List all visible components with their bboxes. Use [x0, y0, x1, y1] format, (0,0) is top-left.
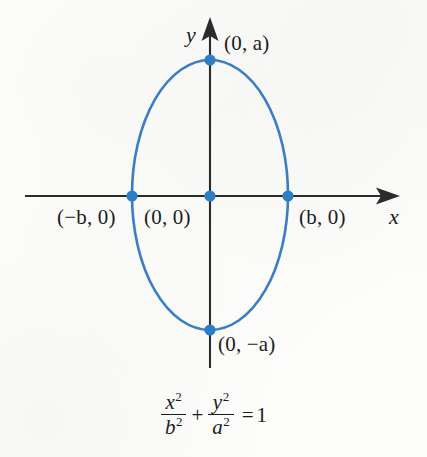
variable-x: x: [165, 390, 174, 414]
fraction-numerator: x2: [161, 392, 185, 414]
exponent-two: 2: [175, 389, 182, 404]
variable-a: a: [212, 415, 223, 439]
point-bottom-vertex: [204, 324, 215, 335]
fraction-numerator: y2: [209, 392, 233, 414]
exponent-two: 2: [223, 414, 230, 429]
exponent-two: 2: [176, 414, 183, 429]
label-left-vertex: (−b, 0): [57, 207, 116, 228]
plus-operator: +: [191, 405, 203, 426]
fraction-x-over-b: x2 b2: [161, 392, 187, 438]
label-origin: (0, 0): [144, 207, 191, 228]
label-right-vertex: (b, 0): [299, 207, 346, 228]
ellipse-figure: y x (0, a) (−b, 0) (0, 0) (b, 0) (0, −a)…: [0, 0, 427, 457]
point-top-vertex: [204, 54, 215, 65]
label-top-vertex: (0, a): [224, 33, 270, 54]
label-bottom-vertex: (0, −a): [218, 334, 276, 355]
x-axis-label: x: [389, 206, 399, 228]
point-left-vertex: [126, 190, 137, 201]
fraction-y-over-a: y2 a2: [208, 392, 234, 438]
variable-y: y: [213, 390, 222, 414]
exponent-two: 2: [223, 389, 230, 404]
equation-right-side: 1: [257, 405, 268, 426]
fraction-denominator: b2: [161, 414, 187, 438]
ellipse-equation: x2 b2 + y2 a2 = 1: [0, 392, 427, 438]
point-origin: [204, 190, 215, 201]
variable-b: b: [165, 415, 176, 439]
fraction-denominator: a2: [208, 414, 234, 438]
y-axis-label: y: [186, 24, 196, 46]
point-right-vertex: [282, 190, 293, 201]
equals-operator: =: [242, 405, 254, 426]
